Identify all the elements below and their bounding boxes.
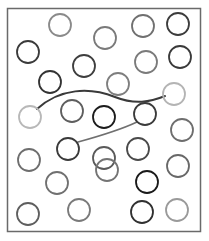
circle-node-21 bbox=[96, 159, 118, 181]
circle-node-8 bbox=[39, 71, 61, 93]
circle-node-23 bbox=[167, 155, 189, 177]
circle-node-15 bbox=[171, 119, 193, 141]
circle-node-3 bbox=[167, 13, 189, 35]
circle-node-19 bbox=[18, 149, 40, 171]
circle-node-26 bbox=[131, 201, 153, 223]
circle-node-7 bbox=[169, 46, 191, 68]
diagram-canvas bbox=[0, 0, 209, 241]
diagram-frame bbox=[8, 9, 201, 232]
circle-node-6 bbox=[135, 51, 157, 73]
circle-node-0 bbox=[49, 14, 71, 36]
connector-lower bbox=[78, 122, 137, 142]
circle-node-13 bbox=[93, 106, 115, 128]
connector-layer bbox=[37, 91, 165, 142]
circle-node-20 bbox=[46, 172, 68, 194]
circle-node-4 bbox=[17, 41, 39, 63]
circle-node-14 bbox=[134, 103, 156, 125]
circle-node-10 bbox=[163, 83, 185, 105]
circle-node-1 bbox=[94, 27, 116, 49]
circle-node-2 bbox=[132, 15, 154, 37]
circle-node-5 bbox=[73, 55, 95, 77]
circle-layer bbox=[17, 13, 193, 225]
circle-node-11 bbox=[19, 106, 41, 128]
circle-node-22 bbox=[136, 171, 158, 193]
circle-node-9 bbox=[107, 73, 129, 95]
circle-node-27 bbox=[166, 199, 188, 221]
circle-node-24 bbox=[17, 203, 39, 225]
circle-node-12 bbox=[61, 100, 83, 122]
circle-node-18 bbox=[127, 138, 149, 160]
circle-node-25 bbox=[68, 199, 90, 221]
circle-node-16 bbox=[57, 138, 79, 160]
